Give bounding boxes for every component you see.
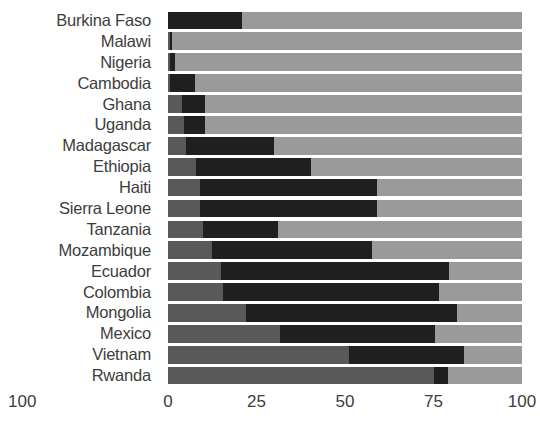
bar-segment-mid (223, 283, 439, 301)
bar-segment-low (168, 95, 182, 113)
bar-track (168, 116, 522, 134)
bar-segment-low (168, 241, 212, 259)
category-label: Uganda (0, 114, 160, 135)
bar-segment-mid (212, 241, 371, 259)
bar-row (168, 10, 522, 31)
x-axis-tick-label: 50 (336, 392, 355, 412)
bar-track (168, 137, 522, 155)
bar-track (168, 304, 522, 322)
bar-track (168, 158, 522, 176)
bar-segment-high (242, 12, 522, 30)
bar-track (168, 221, 522, 239)
bar-track (168, 179, 522, 197)
bar-track (168, 200, 522, 218)
category-label: Tanzania (0, 219, 160, 240)
bar-segment-low (168, 221, 203, 239)
bar-segment-high (274, 137, 522, 155)
bar-segment-mid (434, 367, 448, 385)
bar-track (168, 53, 522, 71)
plot-area (168, 10, 522, 386)
bar-track (168, 262, 522, 280)
x-axis-tick-label: 25 (247, 392, 266, 412)
bar-segment-low (168, 283, 223, 301)
bar-track (168, 74, 522, 92)
bar-track (168, 12, 522, 30)
bar-track (168, 95, 522, 113)
x-axis: 0255075100 (168, 392, 522, 418)
bar-segment-high (175, 53, 522, 71)
bar-segment-high (205, 116, 522, 134)
bar-segment-high (435, 325, 522, 343)
category-axis-labels: Burkina FasoMalawiNigeriaCambodiaGhanaUg… (0, 10, 160, 386)
bar-segment-mid (182, 95, 205, 113)
bar-segment-high (195, 74, 522, 92)
bar-segment-mid (200, 200, 377, 218)
bar-segment-high (311, 158, 522, 176)
bar-row (168, 302, 522, 323)
bar-segment-mid (184, 116, 205, 134)
bar-segment-low (168, 262, 221, 280)
bar-segment-low (168, 116, 184, 134)
category-label: Sierra Leone (0, 198, 160, 219)
bar-row (168, 344, 522, 365)
category-label: Nigeria (0, 52, 160, 73)
bar-segment-low (168, 137, 186, 155)
bar-segment-mid (168, 12, 242, 30)
bar-segment-low (168, 367, 434, 385)
bar-segment-mid (200, 179, 377, 197)
bar-row (168, 156, 522, 177)
x-axis-tick-label: 75 (424, 392, 443, 412)
bar-row (168, 52, 522, 73)
category-label: Mozambique (0, 240, 160, 261)
bar-segment-high (449, 262, 522, 280)
bar-row (168, 177, 522, 198)
category-label: Ethiopia (0, 156, 160, 177)
bar-segment-low (168, 158, 196, 176)
bar-segment-mid (196, 158, 311, 176)
bar-segment-high (377, 179, 522, 197)
category-label: Rwanda (0, 365, 160, 386)
category-label: Vietnam (0, 344, 160, 365)
category-label: Mexico (0, 323, 160, 344)
bar-track (168, 32, 522, 50)
bar-row (168, 323, 522, 344)
bar-segment-high (205, 95, 522, 113)
bar-segment-high (448, 367, 522, 385)
category-label: Burkina Faso (0, 10, 160, 31)
bar-segment-low (168, 346, 349, 364)
bar-row (168, 135, 522, 156)
bar-segment-mid (246, 304, 457, 322)
bar-row (168, 219, 522, 240)
bar-track (168, 325, 522, 343)
bar-segment-high (377, 200, 522, 218)
bar-segment-low (168, 304, 246, 322)
x-axis-tick-label: 0 (163, 392, 172, 412)
bar-track (168, 346, 522, 364)
bar-track (168, 367, 522, 385)
chart-figure: Burkina FasoMalawiNigeriaCambodiaGhanaUg… (0, 0, 540, 425)
bar-row (168, 261, 522, 282)
bar-segment-low (168, 325, 280, 343)
bar-segment-high (278, 221, 522, 239)
left-edge-axis-label: 100 (8, 392, 36, 412)
bar-row (168, 198, 522, 219)
bar-row (168, 240, 522, 261)
category-label: Ecuador (0, 261, 160, 282)
bar-segment-mid (349, 346, 464, 364)
bar-row (168, 73, 522, 94)
bar-row (168, 31, 522, 52)
bar-track (168, 241, 522, 259)
x-axis-tick-label: 100 (508, 392, 536, 412)
bar-segment-mid (170, 74, 194, 92)
bar-row (168, 282, 522, 303)
bar-segment-mid (221, 262, 449, 280)
category-label: Cambodia (0, 73, 160, 94)
bar-segment-high (464, 346, 522, 364)
bar-segment-mid (203, 221, 277, 239)
bar-track (168, 283, 522, 301)
category-label: Colombia (0, 282, 160, 303)
bar-segment-low (168, 179, 200, 197)
category-label: Mongolia (0, 302, 160, 323)
bar-segment-low (168, 200, 200, 218)
bar-segment-mid (186, 137, 275, 155)
